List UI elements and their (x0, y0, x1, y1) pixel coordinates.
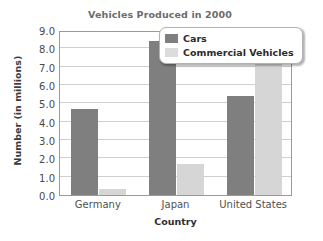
y-axis-tick-label: 4.0 (19, 117, 55, 128)
chart-legend: CarsCommercial Vehicles (159, 27, 303, 64)
y-axis-tick-label: 3.0 (19, 136, 55, 147)
legend-swatch-icon (165, 34, 178, 43)
bar (149, 41, 176, 195)
bar (227, 96, 254, 195)
chart-figure: Vehicles Produced in 2000 Number (in mil… (0, 0, 323, 241)
x-axis-tick-label: United States (219, 199, 287, 210)
x-axis-tick-label: Japan (162, 199, 190, 210)
chart-title: Vehicles Produced in 2000 (70, 9, 250, 20)
y-axis-tick-labels: 9.08.07.06.05.04.03.02.01.00.0 (17, 31, 55, 196)
y-axis-tick-label: 2.0 (19, 154, 55, 165)
y-axis-tick-label: 8.0 (19, 44, 55, 55)
legend-item: Commercial Vehicles (165, 45, 294, 59)
bar (177, 164, 204, 195)
legend-label: Cars (183, 33, 207, 44)
y-axis-tick-label: 9.0 (19, 26, 55, 37)
x-axis-title: Country (59, 216, 292, 227)
x-axis-tick-labels: GermanyJapanUnited States (59, 199, 292, 215)
legend-item: Cars (165, 31, 294, 45)
legend-label: Commercial Vehicles (183, 47, 294, 58)
y-axis-tick-label: 6.0 (19, 81, 55, 92)
bar (99, 189, 126, 195)
bar (255, 64, 282, 195)
y-axis-tick-label: 7.0 (19, 62, 55, 73)
y-axis-tick-label: 1.0 (19, 172, 55, 183)
y-axis-tick-label: 5.0 (19, 99, 55, 110)
x-axis-tick-label: Germany (75, 199, 121, 210)
bar (71, 109, 98, 195)
y-axis-tick-label: 0.0 (19, 191, 55, 202)
legend-swatch-icon (165, 48, 178, 57)
